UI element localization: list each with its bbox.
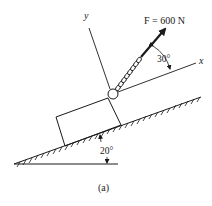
force-angle-label: 30° [157,54,171,64]
block [56,98,121,146]
incline-angle-label: 20° [100,146,114,156]
incline-angle-marker-top [100,135,101,142]
figure-caption: (a) [98,182,109,194]
inclined-plane [14,97,201,167]
spring-coil [115,56,143,91]
force-label: F = 600 N [144,15,185,26]
y-axis-line [89,28,110,89]
y-axis-label: y [83,10,89,21]
x-axis-line [118,63,196,92]
x-axis-label: x [198,55,204,66]
free-body-diagram: y x F = 600 N 30° 20° (a) [0,0,212,206]
